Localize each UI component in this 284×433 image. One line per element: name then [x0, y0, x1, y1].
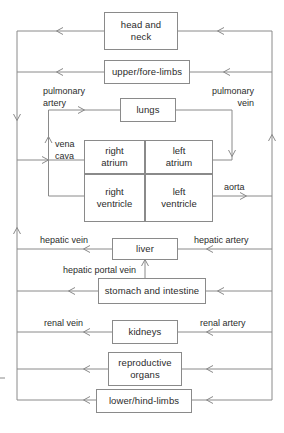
heart-right-ventricle[interactable]: right ventricle	[84, 174, 145, 222]
right-ventricle-label-line2: ventricle	[97, 198, 132, 210]
lungs-label: lungs	[136, 104, 159, 116]
left-atrium-label-line1: left	[173, 145, 186, 157]
right-atrium-label-line1: right	[105, 145, 123, 157]
heart-left-atrium[interactable]: left atrium	[145, 140, 213, 174]
vena-cava-line1: vena	[55, 139, 75, 151]
organ-box-lungs[interactable]: lungs	[120, 98, 176, 122]
hepatic-portal-vein-text: hepatic portal vein	[63, 265, 136, 275]
head-and-neck-label-line2: neck	[131, 31, 151, 43]
left-atrium-label-line2: atrium	[166, 157, 192, 169]
vena-cava-line2: cava	[55, 151, 75, 163]
label-renal-artery: renal artery	[200, 318, 246, 330]
label-pulmonary-artery: pulmonary artery	[43, 86, 85, 109]
left-ventricle-label-line2: ventricle	[161, 198, 196, 210]
pulmonary-vein-line2: vein	[192, 98, 254, 110]
label-aorta: aorta	[224, 182, 245, 194]
organ-box-kidneys[interactable]: kidneys	[112, 320, 178, 344]
label-hepatic-vein: hepatic vein	[40, 235, 88, 247]
pulmonary-artery-line2: artery	[43, 98, 85, 110]
label-renal-vein: renal vein	[44, 318, 83, 330]
circulatory-system-diagram: head and neck upper/fore-limbs lungs rig…	[0, 0, 284, 433]
lower-hind-limbs-label: lower/hind-limbs	[109, 395, 179, 407]
head-and-neck-label-line1: head and	[121, 19, 161, 31]
organ-box-reproductive-organs[interactable]: reproductive organs	[108, 352, 182, 386]
liver-label: liver	[136, 243, 154, 255]
label-vena-cava: vena cava	[55, 139, 75, 162]
organ-box-lower-hind-limbs[interactable]: lower/hind-limbs	[96, 389, 192, 413]
left-ventricle-label-line1: left	[173, 186, 186, 198]
organ-box-stomach-and-intestine[interactable]: stomach and intestine	[98, 278, 206, 304]
stomach-and-intestine-label: stomach and intestine	[105, 285, 200, 297]
label-hepatic-portal-vein: hepatic portal vein	[63, 265, 136, 277]
reproductive-organs-label-line2: organs	[130, 369, 160, 381]
heart-right-atrium[interactable]: right atrium	[84, 140, 145, 174]
renal-vein-text: renal vein	[44, 318, 83, 328]
right-ventricle-label-line1: right	[105, 186, 123, 198]
kidneys-label: kidneys	[129, 326, 162, 338]
pulmonary-vein-line1: pulmonary	[192, 86, 254, 98]
label-hepatic-artery: hepatic artery	[194, 235, 249, 247]
organ-box-liver[interactable]: liver	[112, 238, 178, 260]
upper-fore-limbs-label: upper/fore-limbs	[112, 66, 182, 78]
organ-box-upper-fore-limbs[interactable]: upper/fore-limbs	[104, 60, 190, 84]
renal-artery-text: renal artery	[200, 318, 246, 328]
heart-left-ventricle[interactable]: left ventricle	[145, 174, 213, 222]
label-pulmonary-vein: pulmonary vein	[192, 86, 254, 109]
pulmonary-artery-line1: pulmonary	[43, 86, 85, 98]
hepatic-vein-text: hepatic vein	[40, 235, 88, 245]
aorta-text: aorta	[224, 182, 245, 192]
reproductive-organs-label-line1: reproductive	[118, 357, 171, 369]
hepatic-artery-text: hepatic artery	[194, 235, 249, 245]
right-atrium-label-line2: atrium	[101, 157, 127, 169]
organ-box-head-and-neck[interactable]: head and neck	[104, 12, 178, 50]
